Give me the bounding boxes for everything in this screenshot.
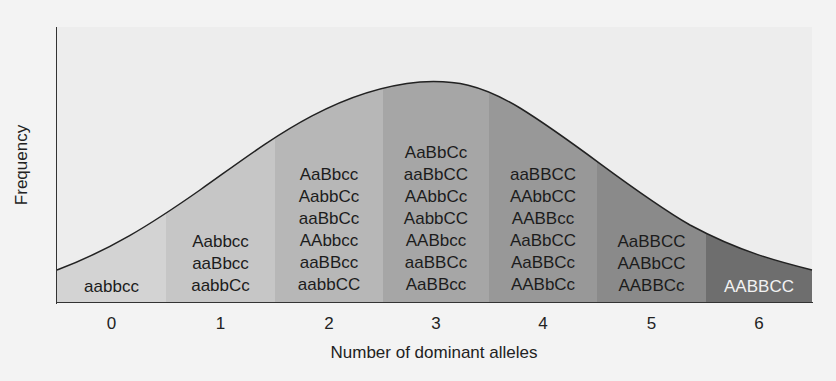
genotype-label: aaBBcc [275, 252, 383, 274]
genotype-label: AaBBCc [489, 252, 597, 274]
genotype-label: AAbbCC [489, 186, 597, 208]
genotype-label: aabbCc [167, 275, 275, 297]
genotype-label: aaBbCc [275, 208, 383, 230]
genotype-label: AaBbCc [382, 142, 490, 164]
x-tick-5: 5 [632, 314, 672, 334]
genotype-label: AaBbCC [489, 230, 597, 252]
genotype-column-1: AabbccaaBbccaabbCc [167, 231, 275, 297]
genotype-label: aaBBCC [489, 164, 597, 186]
genotype-label: AABBCc [598, 275, 706, 297]
x-tick-6: 6 [739, 314, 779, 334]
genotype-label: AaBBCC [598, 231, 706, 253]
genotype-label: aaBBCc [382, 252, 490, 274]
y-axis [56, 27, 57, 304]
genotype-label: AABbCC [598, 253, 706, 275]
genotype-label: AabbCc [275, 186, 383, 208]
genotype-label: AaBbcc [275, 164, 383, 186]
genotype-label: aaBbcc [167, 253, 275, 275]
genotype-label: AabbCC [382, 208, 490, 230]
genotype-label: aabbcc [58, 276, 166, 298]
x-tick-4: 4 [523, 314, 563, 334]
genotype-label: AABbcc [382, 230, 490, 252]
genotype-column-5: AaBBCCAABbCCAABBCc [598, 231, 706, 297]
genotype-label: aaBbCC [382, 164, 490, 186]
genotype-label: AAbbCc [382, 186, 490, 208]
x-tick-1: 1 [201, 314, 241, 334]
y-axis-label: Frequency [12, 125, 32, 205]
genotype-column-0: aabbcc [58, 276, 166, 298]
genotype-label: aabbCC [275, 274, 383, 296]
genotype-column-4: aaBBCCAAbbCCAABBccAaBbCCAaBBCcAABbCc [489, 164, 597, 296]
genotype-column-3: AaBbCcaaBbCCAAbbCcAabbCCAABbccaaBBCcAaBB… [382, 142, 490, 296]
x-tick-0: 0 [92, 314, 132, 334]
x-tick-3: 3 [416, 314, 456, 334]
x-axis [56, 302, 813, 303]
genotype-label: AaBBcc [382, 274, 490, 296]
genotype-label: AABBcc [489, 208, 597, 230]
genotype-column-6: AABBCC [705, 276, 813, 298]
genotype-label: AAbbcc [275, 230, 383, 252]
x-tick-2: 2 [309, 314, 349, 334]
x-axis-label: Number of dominant alleles [0, 343, 836, 363]
polygenic-inheritance-chart: aabbccAabbccaaBbccaabbCcAaBbccAabbCcaaBb… [0, 0, 836, 381]
genotype-label: AABbCc [489, 274, 597, 296]
genotype-column-2: AaBbccAabbCcaaBbCcAAbbccaaBBccaabbCC [275, 164, 383, 296]
band-0 [57, 20, 166, 310]
genotype-label: Aabbcc [167, 231, 275, 253]
genotype-label: AABBCC [705, 276, 813, 298]
